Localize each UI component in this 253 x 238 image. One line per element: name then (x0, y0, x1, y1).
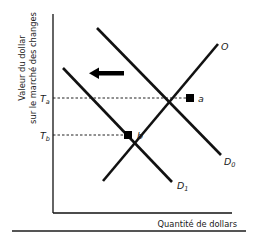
y-axis-label-line2: sur le marché des changes (28, 12, 38, 124)
demand-curve-d0 (97, 28, 221, 155)
y-axis-label-line1: Valeur du dollar (17, 35, 27, 101)
ta-label: Ta (40, 93, 50, 106)
shift-left-arrow-icon (89, 68, 124, 80)
tb-label: Tb (40, 130, 50, 143)
x-axis-label: Quantité de dollars (158, 219, 237, 229)
d1-label: D1 (177, 180, 188, 193)
point-a-label: a (198, 93, 204, 104)
supply-label: O (221, 41, 229, 52)
d0-label: D0 (224, 156, 235, 169)
point-b-label: b (137, 130, 143, 141)
exchange-rate-diagram: Valeur du dollar sur le marché des chang… (0, 0, 253, 238)
supply-curve-o (103, 44, 218, 181)
point-a-marker (186, 94, 194, 102)
point-b-marker (124, 131, 132, 139)
